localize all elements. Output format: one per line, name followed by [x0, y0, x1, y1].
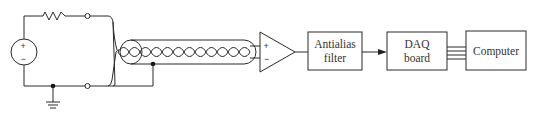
- amp-plus-label: +: [264, 41, 269, 51]
- cable-input-wires: [90, 16, 119, 86]
- amp-minus-label: −: [264, 54, 269, 64]
- ground-icon: [46, 84, 60, 108]
- signal-chain-diagram: + −: [0, 0, 537, 117]
- voltage-source: + −: [11, 39, 37, 65]
- source-plus-label: +: [21, 41, 26, 51]
- arrow-to-daq: [362, 49, 387, 55]
- terminal-bottom: [85, 84, 90, 89]
- antialias-filter-block: Antialias filter: [308, 32, 362, 70]
- computer-block: Computer: [466, 31, 526, 70]
- amplifier-icon: + −: [260, 32, 295, 72]
- resistor-icon: [43, 12, 85, 20]
- source-minus-label: −: [21, 54, 26, 64]
- daq-board-block: DAQ board: [387, 32, 447, 70]
- source-wires: [24, 16, 85, 86]
- daq-board-line1: DAQ: [405, 38, 431, 50]
- data-bus-lines: [447, 47, 466, 59]
- daq-board-line2: board: [404, 52, 430, 64]
- shielded-twisted-pair-cable: [113, 40, 256, 86]
- antialias-filter-line1: Antialias: [314, 38, 356, 50]
- antialias-filter-line2: filter: [324, 52, 347, 64]
- terminal-top: [85, 14, 90, 19]
- computer-label: Computer: [473, 45, 519, 58]
